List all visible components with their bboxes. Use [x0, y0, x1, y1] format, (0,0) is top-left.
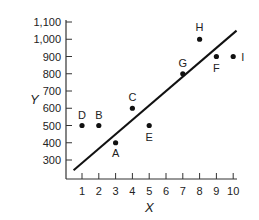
x-tick-label: 4: [129, 185, 135, 197]
data-point: [130, 106, 135, 111]
point-label: I: [241, 51, 244, 63]
x-tick-label: 7: [180, 185, 186, 197]
point-label: F: [213, 62, 220, 74]
y-tick-label: 800: [43, 68, 61, 80]
x-tick-label: 8: [197, 185, 203, 197]
point-label: C: [128, 91, 136, 103]
data-point: [231, 54, 236, 59]
x-tick-label: 9: [213, 185, 219, 197]
x-axis-label: X: [144, 200, 155, 215]
point-label: H: [196, 21, 204, 33]
x-tick-label: 2: [96, 185, 102, 197]
x-tick-label: 10: [227, 185, 239, 197]
y-tick-label: 400: [43, 137, 61, 149]
x-tick-label: 1: [79, 185, 85, 197]
point-label: D: [78, 109, 86, 121]
y-tick-label: 900: [43, 51, 61, 63]
regression-line: [74, 31, 237, 171]
y-tick-label: 300: [43, 154, 61, 166]
x-tick-label: 5: [146, 185, 152, 197]
y-tick-label: 1,100: [33, 16, 61, 28]
data-points: ABCDEFGHI: [78, 21, 244, 159]
x-axis: 12345678910: [66, 173, 239, 197]
point-label: E: [146, 131, 153, 143]
data-point: [79, 123, 84, 128]
x-tick-label: 6: [163, 185, 169, 197]
y-tick-label: 500: [43, 120, 61, 132]
y-tick-label: 700: [43, 85, 61, 97]
point-label: B: [95, 109, 102, 121]
point-label: G: [179, 57, 188, 69]
scatter-chart: 3004005006007008009001,0001,100 12345678…: [0, 0, 259, 220]
data-point: [96, 123, 101, 128]
data-point: [180, 71, 185, 76]
y-tick-label: 1,000: [33, 33, 61, 45]
y-tick-label: 600: [43, 102, 61, 114]
data-point: [197, 37, 202, 42]
point-label: A: [112, 147, 120, 159]
x-tick-label: 3: [113, 185, 119, 197]
data-point: [214, 54, 219, 59]
y-axis: 3004005006007008009001,0001,100: [33, 16, 72, 179]
data-point: [147, 123, 152, 128]
y-axis-label: Y: [30, 92, 40, 107]
data-point: [113, 140, 118, 145]
